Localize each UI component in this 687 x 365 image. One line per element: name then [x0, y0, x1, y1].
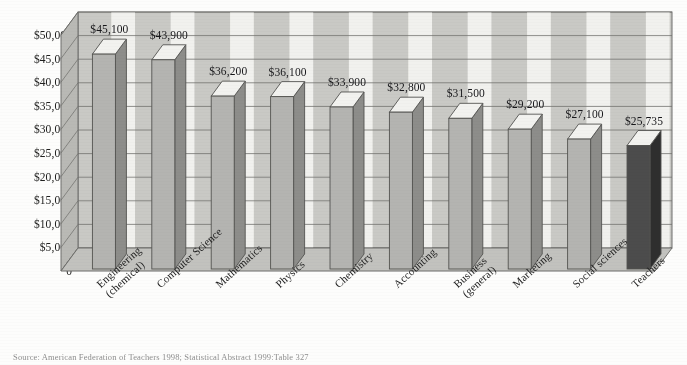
bar-value-label: $45,100: [90, 23, 128, 35]
bar-3d: [627, 131, 661, 269]
bar-value-label: $36,100: [269, 66, 307, 78]
bar-3d: [568, 124, 602, 269]
bar-3d: [152, 45, 186, 269]
bar-value-label: $32,800: [387, 81, 425, 93]
bar-3d: [449, 103, 483, 269]
bar-value-label: $43,900: [150, 29, 188, 41]
bar-value-label: $29,200: [506, 98, 544, 110]
bar-value-label: $25,735: [625, 115, 663, 127]
bar-3d: [330, 92, 364, 269]
bar-chart: $50,000$45,000$40,000$35,000$30,000$25,0…: [0, 0, 687, 365]
bar-3d: [389, 97, 423, 269]
bar-3d: [508, 114, 542, 269]
bar-3d: [92, 39, 126, 269]
source-note: Source: American Federation of Teachers …: [13, 352, 309, 362]
bar-3d: [271, 82, 305, 269]
bar-value-label: $31,500: [447, 87, 485, 99]
bar-value-label: $33,900: [328, 76, 366, 88]
plot-area: [0, 0, 687, 365]
bar-value-label: $27,100: [566, 108, 604, 120]
bar-value-label: $36,200: [209, 65, 247, 77]
